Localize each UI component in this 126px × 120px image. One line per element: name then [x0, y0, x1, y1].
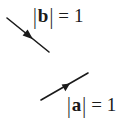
- abs-bar-right: |: [49, 2, 53, 30]
- abs-bar-left: |: [33, 2, 37, 30]
- abs-bar-left: |: [67, 91, 71, 119]
- magnitude-value: 1: [74, 5, 84, 26]
- equals-sign: =: [86, 94, 107, 115]
- label-a-magnitude: |a|=1: [67, 94, 116, 116]
- vector-a-symbol: a: [71, 94, 83, 115]
- magnitude-value: 1: [107, 94, 117, 115]
- vector-diagram: |b|=1 |a|=1: [0, 0, 126, 120]
- equals-sign: =: [53, 5, 74, 26]
- abs-bar-right: |: [82, 91, 86, 119]
- vector-b-symbol: b: [37, 5, 50, 26]
- label-b-magnitude: |b|=1: [33, 5, 83, 27]
